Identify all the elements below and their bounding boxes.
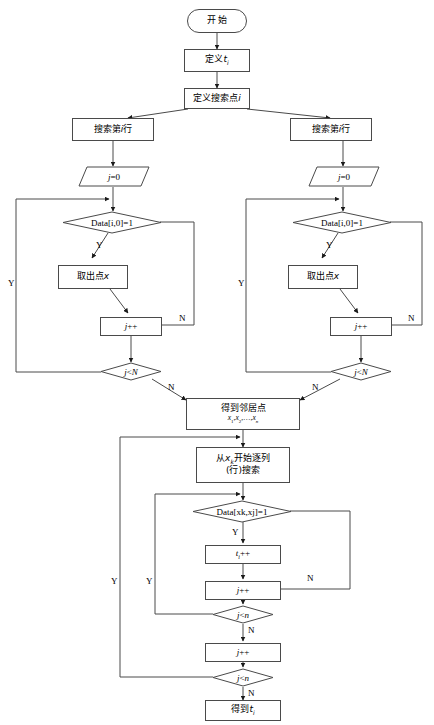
node-cond-jn-inner-label: j<n <box>212 605 274 624</box>
node-incr-ti-label: ti++ <box>236 549 250 560</box>
node-start-label: 开 始 <box>207 16 228 26</box>
edge-label-yes-mid-data: Y <box>232 527 239 537</box>
node-cond-data-xk-label: Data[xk,xj]=1 <box>192 500 292 523</box>
node-neighbors-line1: 得到邻居点 <box>221 404 266 414</box>
node-take-point-left-label: 取出点x <box>77 272 109 282</box>
node-incr-j-right: j++ <box>330 317 392 336</box>
node-incr-j-mid-label: j++ <box>237 586 250 596</box>
node-cond-jn-outer: j<n <box>212 668 274 687</box>
edge-label-yes-inner-loop: Y <box>146 576 153 586</box>
node-result-label: 得到ti <box>231 705 254 716</box>
node-cond-jn-inner: j<n <box>212 605 274 624</box>
node-init-j-right-label: j=0 <box>308 166 380 187</box>
node-search-row-left: 搜索第i行 <box>72 118 154 141</box>
edge-label-no-left-data: N <box>179 313 186 323</box>
node-neighbors-line2: x1,x2,…,xn <box>228 414 259 424</box>
edge-label-no-inner-jn: N <box>248 625 255 635</box>
node-take-point-right: 取出点x <box>288 265 358 289</box>
node-init-j-left: j=0 <box>78 166 150 187</box>
node-init-j-right: j=0 <box>308 166 380 187</box>
node-define-t: 定义ti <box>184 49 250 72</box>
node-search-row-right-label: 搜索第i行 <box>312 125 351 135</box>
node-cond-jn-left: j<N <box>100 362 162 381</box>
edge-label-no-left-jn: N <box>168 382 175 392</box>
node-cond-jn-right: j<N <box>330 362 392 381</box>
node-take-point-left: 取出点x <box>58 265 128 289</box>
node-take-point-right-label: 取出点x <box>307 272 339 282</box>
node-neighbors: 得到邻居点 x1,x2,…,xn <box>186 398 300 430</box>
node-cond-data-left: Data[i,0]=1 <box>62 211 162 234</box>
node-incr-j-right-label: j++ <box>355 322 368 332</box>
node-incr-j-left: j++ <box>100 317 162 336</box>
node-init-j-left-label: j=0 <box>78 166 150 187</box>
edge-label-yes-right-loop: Y <box>238 278 245 288</box>
node-cond-jn-left-label: j<N <box>100 362 162 381</box>
node-incr-j-mid: j++ <box>205 581 281 600</box>
node-scan-from-xk: 从xk开始逐列 (行)搜索 <box>196 447 290 483</box>
node-incr-ti: ti++ <box>205 545 281 564</box>
node-cond-jn-right-label: j<N <box>330 362 392 381</box>
node-scan-from-xk-line1: 从xk开始逐列 <box>216 454 270 465</box>
node-scan-from-xk-line2: (行)搜索 <box>226 466 260 476</box>
node-search-row-left-label: 搜索第i行 <box>94 125 133 135</box>
node-define-search-point: 定义搜索点i <box>184 88 250 109</box>
node-start: 开 始 <box>187 9 247 33</box>
edge-label-yes-left-data: Y <box>96 240 103 250</box>
edge-label-yes-left-loop: Y <box>8 278 15 288</box>
edge-label-yes-right-data: Y <box>326 240 333 250</box>
edge-label-no-mid-data: N <box>307 573 314 583</box>
node-incr-j-outer: j++ <box>205 643 281 662</box>
flowchart-canvas: 开 始 定义ti 定义搜索点i 搜索第i行 搜索第i行 j=0 <box>0 0 434 725</box>
edge-label-no-right-jn: N <box>312 382 319 392</box>
node-define-search-point-label: 定义搜索点i <box>193 94 241 104</box>
node-cond-data-left-label: Data[i,0]=1 <box>62 211 162 234</box>
node-cond-data-xk: Data[xk,xj]=1 <box>192 500 292 523</box>
node-incr-j-outer-label: j++ <box>237 648 250 658</box>
node-result: 得到ti <box>205 700 281 721</box>
node-incr-j-left-label: j++ <box>125 322 138 332</box>
node-cond-data-right: Data[i,0]=1 <box>292 211 392 234</box>
node-search-row-right: 搜索第i行 <box>290 118 372 141</box>
edge-label-no-right-data: N <box>408 313 415 323</box>
node-cond-jn-outer-label: j<n <box>212 668 274 687</box>
edge-label-yes-outer-loop: Y <box>111 576 118 586</box>
node-cond-data-right-label: Data[i,0]=1 <box>292 211 392 234</box>
edge-label-no-outer-jn: N <box>248 688 255 698</box>
node-define-t-label: 定义ti <box>205 55 228 66</box>
